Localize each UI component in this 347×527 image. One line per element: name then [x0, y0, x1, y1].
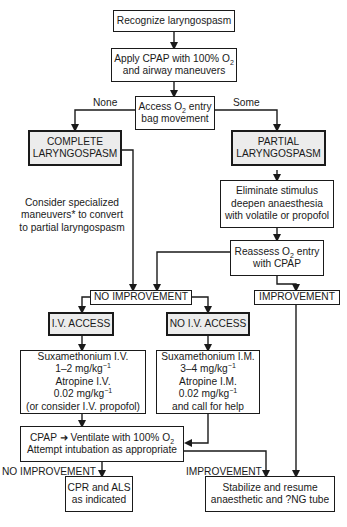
node-text: LARYNGOSPASM: [33, 148, 118, 160]
node-text: Atropine I.V.: [55, 376, 110, 388]
node-text: Recognize laryngospasm: [117, 15, 231, 27]
node-reassess-o2-entry: Reassess O2 entry with CPAP: [230, 240, 324, 276]
node-complete-laryngospasm: COMPLETE LARYNGOSPASM: [28, 130, 122, 166]
node-text: NO IMPROVEMENT: [94, 291, 188, 303]
node-text: 1–2 mg/kg−1: [55, 363, 111, 375]
node-improvement: IMPROVEMENT: [254, 290, 340, 305]
node-text: NO I.V. ACCESS: [170, 318, 247, 330]
node-text: Reassess O2 entry: [235, 246, 320, 258]
node-apply-cpap: Apply CPAP with 100% O2 and airway maneu…: [111, 48, 237, 82]
node-im-drugs: Suxamethonium I.M. 3–4 mg/kg−1 Atropine …: [156, 350, 260, 414]
node-no-iv-access: NO I.V. ACCESS: [166, 312, 250, 336]
node-text: I.V. ACCESS: [52, 318, 111, 330]
node-text: IMPROVEMENT: [259, 291, 335, 303]
node-eliminate-stimulus: Eliminate stimulus deepen anaesthesia wi…: [220, 180, 334, 228]
node-text: bag movement: [141, 113, 208, 125]
node-text: CPR and ALS: [68, 482, 131, 494]
node-text: and airway maneuvers: [123, 65, 226, 77]
edge-label-none: None: [93, 97, 117, 109]
node-text: Apply CPAP with 100% O2: [114, 53, 234, 65]
node-recognize-laryngospasm: Recognize laryngospasm: [113, 10, 235, 32]
node-text: (or consider I.V. propofol): [26, 401, 140, 413]
node-text: 0.02 mg/kg−1: [179, 388, 237, 400]
node-text: Suxamethonium I.M.: [161, 351, 254, 363]
node-text: CPAP ➜ Ventilate with 100% O2: [30, 432, 174, 444]
node-iv-drugs: Suxamethonium I.V. 1–2 mg/kg−1 Atropine …: [20, 350, 146, 414]
node-text: Access O2 entry: [139, 101, 212, 113]
node-text: Suxamethonium I.V.: [38, 351, 129, 363]
node-cpr-als: CPR and ALS as indicated: [65, 476, 133, 512]
node-no-improvement: NO IMPROVEMENT: [90, 290, 192, 305]
node-iv-access: I.V. ACCESS: [48, 312, 114, 336]
node-ventilate: CPAP ➜ Ventilate with 100% O2 Attempt in…: [20, 426, 184, 462]
edge-label-some: Some: [233, 97, 260, 109]
node-text: 0.02 mg/kg−1: [54, 388, 112, 400]
node-text: LARYNGOSPASM: [236, 148, 321, 160]
flowchart-canvas: Recognize laryngospasm Apply CPAP with 1…: [0, 0, 347, 527]
node-stabilize: Stabilize and resume anaesthetic and ?NG…: [205, 476, 335, 512]
node-text: with CPAP: [253, 258, 301, 270]
node-text: 3–4 mg/kg−1: [180, 363, 236, 375]
arrow-right-icon: ➜: [60, 432, 68, 443]
node-text: and call for help: [172, 401, 244, 413]
node-text: Eliminate stimulus: [236, 185, 318, 197]
node-text: deepen anaesthesia: [231, 198, 323, 210]
node-text: Attempt intubation as appropriate: [27, 444, 177, 456]
node-text: as indicated: [72, 494, 126, 506]
node-text: COMPLETE: [47, 136, 103, 148]
node-text: anaesthetic and ?NG tube: [211, 494, 329, 506]
node-text: Stabilize and resume: [222, 482, 317, 494]
node-text: with volatile or propofol: [225, 210, 329, 222]
node-text: PARTIAL: [258, 136, 300, 148]
note-specialized-maneuvers: Consider specialized maneuvers* to conve…: [14, 197, 130, 234]
node-assess-o2-entry: Access O2 entry bag movement: [135, 96, 215, 130]
node-partial-laryngospasm: PARTIAL LARYNGOSPASM: [231, 130, 326, 166]
